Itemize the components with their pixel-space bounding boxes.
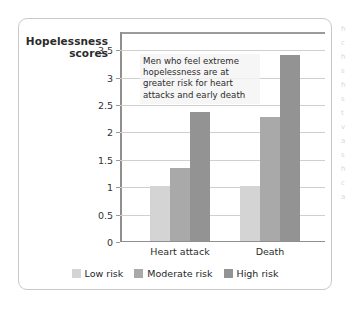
y-tick-mark <box>116 132 120 133</box>
y-tick-label: 2 <box>107 127 113 138</box>
bar-heart-attack-high-risk <box>190 112 210 241</box>
bar-death-moderate-risk <box>260 117 280 240</box>
margin-text-line: c <box>341 36 358 50</box>
y-tick-label: 0 <box>107 237 113 248</box>
legend-item-moderate-risk: Moderate risk <box>134 268 212 279</box>
figure-root: Hopelessness scores 00.511.522.533.5 Hea… <box>0 0 358 311</box>
margin-text-line: s <box>341 148 358 162</box>
y-tick-label: 1.5 <box>98 154 113 165</box>
y-tick-mark <box>116 105 120 106</box>
chart-annotation: Men who feel extreme hopelessness are at… <box>140 54 260 104</box>
plot-top-border <box>120 32 325 34</box>
margin-text-line: h <box>341 78 358 92</box>
margin-text-line: a <box>341 134 358 148</box>
margin-text-line: v <box>341 120 358 134</box>
y-tick-label: 1 <box>107 182 113 193</box>
legend-swatch-icon-low-risk <box>72 269 81 278</box>
legend-item-low-risk: Low risk <box>72 268 124 279</box>
category-label-heart-attack: Heart attack <box>150 246 209 257</box>
legend-item-high-risk: High risk <box>224 268 279 279</box>
y-axis-title-line1: Hopelessness <box>20 36 108 48</box>
y-axis-line <box>120 32 122 242</box>
bar-death-high-risk <box>280 55 300 240</box>
y-tick-mark <box>116 160 120 161</box>
y-tick-label: 0.5 <box>98 209 113 220</box>
y-tick-mark <box>116 242 120 243</box>
y-tick-mark <box>116 50 120 51</box>
margin-text-line: c <box>341 176 358 190</box>
page-margin-text: hchshstvashca <box>341 22 358 202</box>
bar-death-low-risk <box>240 186 260 241</box>
category-label-death: Death <box>256 246 285 257</box>
y-axis-title: Hopelessness scores <box>20 36 108 59</box>
gridline <box>120 50 325 51</box>
bar-heart-attack-moderate-risk <box>170 168 190 241</box>
margin-text-line: h <box>341 50 358 64</box>
y-tick-mark <box>116 187 120 188</box>
margin-text-line: s <box>341 64 358 78</box>
margin-text-line: s <box>341 92 358 106</box>
legend-label-low-risk: Low risk <box>85 268 124 279</box>
y-tick-label: 2.5 <box>98 99 113 110</box>
legend-label-moderate-risk: Moderate risk <box>147 268 212 279</box>
margin-text-line: h <box>341 22 358 36</box>
y-axis-title-line2: scores <box>20 48 108 60</box>
chart-legend: Low risk Moderate risk High risk <box>18 268 332 279</box>
margin-text-line: a <box>341 190 358 202</box>
y-tick-mark <box>116 215 120 216</box>
y-tick-label: 3 <box>107 72 113 83</box>
legend-label-high-risk: High risk <box>237 268 279 279</box>
margin-text-line: h <box>341 162 358 176</box>
x-axis-line <box>120 241 325 243</box>
y-tick-label: 3.5 <box>98 45 113 56</box>
legend-swatch-icon-high-risk <box>224 269 233 278</box>
margin-text-line: t <box>341 106 358 120</box>
bar-heart-attack-low-risk <box>150 186 170 241</box>
legend-swatch-icon-moderate-risk <box>134 269 143 278</box>
y-tick-mark <box>116 78 120 79</box>
